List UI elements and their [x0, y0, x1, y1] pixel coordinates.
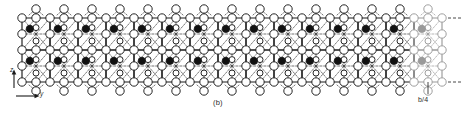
atom-open-interior — [173, 57, 179, 63]
atom-open-apex-top — [424, 5, 432, 13]
atom-filled-cation — [418, 57, 425, 64]
atom-open-edge-mid — [32, 78, 40, 86]
atom-open-corner — [130, 14, 138, 22]
atom-open-edge-mid — [116, 46, 124, 54]
atom-filled-cation — [362, 25, 369, 32]
atom-open-interior — [117, 38, 123, 44]
atom-filled-cation — [250, 25, 257, 32]
atom-open-interior — [313, 25, 319, 31]
atom-open-apex-top — [172, 5, 180, 13]
atom-open-corner — [214, 14, 222, 22]
atom-open-edge-vert — [326, 62, 334, 70]
atom-open-edge-mid — [116, 14, 124, 22]
atom-open-corner — [270, 46, 278, 54]
atom-open-edge-mid — [256, 78, 264, 86]
atom-open-apex-top — [396, 5, 404, 13]
atom-open-edge-mid — [340, 78, 348, 86]
atom-open-interior — [229, 38, 235, 44]
atom-open-interior — [369, 57, 375, 63]
atom-open-interior — [313, 38, 319, 44]
atom-open-edge-mid — [88, 78, 96, 86]
atom-open-interior — [201, 70, 207, 76]
atom-open-corner — [410, 14, 418, 22]
atom-filled-cation — [54, 25, 61, 32]
atom-open-interior — [173, 70, 179, 76]
atom-filled-cation — [26, 57, 33, 64]
atom-open-interior — [145, 38, 151, 44]
atom-open-edge-mid — [144, 78, 152, 86]
atom-open-interior — [341, 57, 347, 63]
atom-filled-cation — [138, 25, 145, 32]
atom-open-corner — [298, 14, 306, 22]
atom-open-edge-mid — [172, 14, 180, 22]
atom-open-edge-mid — [256, 46, 264, 54]
atom-open-apex-bottom — [144, 87, 152, 95]
atom-open-edge-vert — [354, 30, 362, 38]
atom-open-edge-vert — [270, 62, 278, 70]
atom-open-corner — [242, 78, 250, 86]
atom-open-apex-top — [228, 5, 236, 13]
atom-open-corner — [410, 78, 418, 86]
atom-filled-cation — [362, 57, 369, 64]
atom-open-interior — [369, 25, 375, 31]
atom-open-apex-bottom — [172, 87, 180, 95]
atom-open-apex-top — [88, 5, 96, 13]
atom-open-apex-bottom — [340, 87, 348, 95]
atom-open-apex-top — [200, 5, 208, 13]
atom-open-edge-vert — [18, 30, 26, 38]
atom-open-corner — [130, 46, 138, 54]
atom-open-corner — [46, 78, 54, 86]
atom-open-edge-vert — [18, 62, 26, 70]
atom-open-interior — [201, 57, 207, 63]
atom-filled-cation — [306, 25, 313, 32]
atom-open-interior — [397, 38, 403, 44]
atom-open-corner — [74, 78, 82, 86]
atom-open-corner — [102, 46, 110, 54]
atom-filled-cation — [306, 57, 313, 64]
atom-open-corner — [18, 14, 26, 22]
atom-open-interior — [33, 25, 39, 31]
atom-open-interior — [117, 57, 123, 63]
atom-open-corner — [74, 14, 82, 22]
atom-open-apex-top — [144, 5, 152, 13]
atom-open-edge-vert — [74, 62, 82, 70]
atom-open-edge-mid — [200, 46, 208, 54]
atom-open-edge-mid — [200, 14, 208, 22]
atom-open-corner — [326, 14, 334, 22]
atom-open-edge-mid — [396, 46, 404, 54]
atom-open-interior — [285, 38, 291, 44]
atom-filled-cation — [110, 57, 117, 64]
atom-filled-cation — [26, 25, 33, 32]
atom-filled-cation — [418, 25, 425, 32]
atom-open-edge-vert — [158, 62, 166, 70]
atom-filled-cation — [222, 25, 229, 32]
atom-open-corner — [410, 46, 418, 54]
atom-open-edge-vert — [158, 30, 166, 38]
atom-open-corner — [242, 14, 250, 22]
atom-open-edge-vert — [214, 62, 222, 70]
atom-open-corner — [382, 14, 390, 22]
atom-open-edge-vert — [354, 62, 362, 70]
atom-filled-cation — [194, 57, 201, 64]
atom-filled-cation — [334, 25, 341, 32]
atom-open-edge-vert — [46, 30, 54, 38]
atom-open-edge-mid — [172, 78, 180, 86]
atom-open-interior — [369, 38, 375, 44]
atom-open-corner — [74, 46, 82, 54]
atom-open-interior — [257, 70, 263, 76]
atom-open-edge-vert — [410, 62, 418, 70]
atom-filled-cation — [390, 57, 397, 64]
atom-open-interior — [117, 70, 123, 76]
atom-open-corner — [438, 46, 446, 54]
atom-open-interior — [145, 70, 151, 76]
atom-open-apex-bottom — [32, 87, 40, 95]
atom-open-edge-mid — [424, 46, 432, 54]
atom-open-corner — [382, 46, 390, 54]
atom-open-corner — [382, 78, 390, 86]
atom-open-interior — [341, 38, 347, 44]
atom-open-edge-mid — [368, 78, 376, 86]
atom-open-edge-vert — [74, 30, 82, 38]
atom-open-edge-mid — [228, 14, 236, 22]
atom-open-edge-mid — [368, 46, 376, 54]
atom-filled-cation — [82, 25, 89, 32]
